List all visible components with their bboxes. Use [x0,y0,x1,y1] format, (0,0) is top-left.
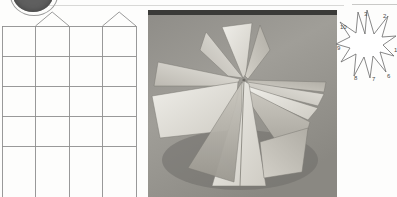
scan-rule-line [44,5,344,6]
burst-label-10: 10 [340,24,347,30]
burst-label-8: 8 [354,75,358,81]
burst-label-9: 9 [337,45,341,51]
burst-label-7: 7 [372,76,376,82]
photo-top-edge [148,10,337,15]
net-tab-column-2 [36,12,70,26]
net-tab-column-4 [103,12,137,26]
petal-convergence-point [242,78,245,81]
net-grid-diagram [0,10,144,197]
starburst-outline [336,10,396,78]
burst-label-6: 6 [387,73,391,79]
paper-sculpture-photo [148,10,337,197]
starburst-diagram: 1 2 3 10 9 8 7 6 [336,4,397,108]
scanned-figure-page: 1 2 3 10 9 8 7 6 [0,0,397,197]
